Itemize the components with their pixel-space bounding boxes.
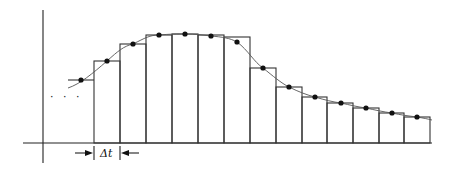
sample-point <box>208 33 213 38</box>
step-bar <box>276 87 302 143</box>
sample-point <box>260 65 265 70</box>
step-bar <box>94 61 120 143</box>
sample-point <box>312 94 317 99</box>
sample-point <box>234 39 239 44</box>
left-arrow-head-icon <box>85 150 93 156</box>
sample-point <box>338 100 343 105</box>
step-bar <box>120 44 146 143</box>
step-bar <box>250 68 276 143</box>
sample-point <box>286 84 291 89</box>
step-bar <box>224 37 250 143</box>
step-approximation-diagram: · · · Δt <box>0 0 450 174</box>
sample-point <box>182 31 187 36</box>
step-bar <box>353 108 379 143</box>
continuation-ellipsis: · · · <box>50 90 82 103</box>
step-bars <box>68 34 430 143</box>
right-arrow-head-icon <box>121 150 129 156</box>
sample-point <box>389 110 394 115</box>
sample-point <box>414 114 419 119</box>
step-bar <box>198 35 224 143</box>
delta-t-marker: Δt <box>75 146 139 160</box>
step-bar <box>404 117 430 143</box>
sample-point <box>156 32 161 37</box>
step-bar <box>379 113 404 143</box>
delta-t-label: Δt <box>99 147 113 160</box>
step-bar <box>302 97 327 143</box>
sample-point <box>104 58 109 63</box>
sample-point <box>363 105 368 110</box>
step-bar <box>172 34 198 143</box>
sample-point <box>78 77 83 82</box>
step-bar <box>146 35 172 143</box>
sample-point <box>130 41 135 46</box>
step-bar <box>327 103 353 143</box>
